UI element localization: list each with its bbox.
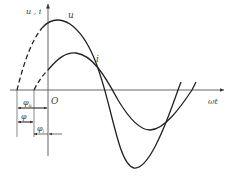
phi-u-label: φu	[23, 98, 32, 108]
u-curve-solid	[42, 20, 181, 168]
i-curve-label: i	[96, 54, 99, 64]
i-curve	[34, 53, 196, 130]
u-curve-dashed	[17, 28, 42, 90]
origin-label: O	[51, 96, 59, 106]
sine-phase-diagram: u , i u i O ωt φu φ φi	[0, 0, 232, 178]
i-curve-solid	[48, 53, 196, 130]
phi-label: φ	[21, 112, 27, 121]
u-curve-label: u	[68, 10, 74, 20]
x-axis-label: ωt	[208, 97, 219, 106]
phi-i-label: φi	[37, 124, 45, 134]
y-axis-label: u , i	[26, 7, 42, 16]
i-curve-dashed	[34, 70, 48, 90]
u-curve	[17, 20, 181, 168]
